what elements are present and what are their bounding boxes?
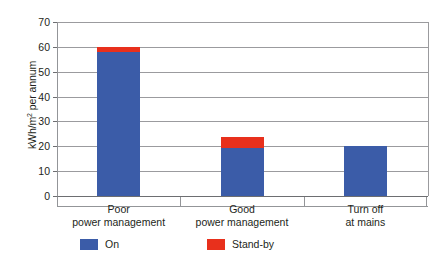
y-axis-tick-label: 40 bbox=[24, 92, 50, 103]
bar-group[interactable] bbox=[221, 22, 264, 196]
category-label: Turn offat mains bbox=[304, 203, 427, 229]
legend-label: On bbox=[105, 238, 119, 250]
legend-item-on[interactable]: On bbox=[80, 238, 119, 250]
y-axis-tick-label: 50 bbox=[24, 67, 50, 78]
category-label-line: at mains bbox=[304, 216, 427, 229]
legend-label: Stand-by bbox=[232, 238, 274, 250]
bar-segment-on[interactable] bbox=[221, 148, 264, 196]
category-label-line: Turn off bbox=[304, 203, 427, 216]
plot-right-border bbox=[428, 22, 429, 196]
category-label-line: power management bbox=[57, 216, 180, 229]
y-axis-tick-label: 30 bbox=[24, 116, 50, 127]
bar-segment-on[interactable] bbox=[97, 52, 140, 196]
category-label: Poorpower management bbox=[57, 203, 180, 229]
bar-group[interactable] bbox=[344, 22, 387, 196]
y-axis-tick-label: 60 bbox=[24, 42, 50, 53]
bar-segment-on[interactable] bbox=[344, 146, 387, 196]
chart-legend: OnStand-by bbox=[0, 238, 446, 256]
bar-chart: kWh/m2 per annum 010203040506070 Poorpow… bbox=[0, 0, 446, 267]
y-axis-tick-label: 0 bbox=[24, 191, 50, 202]
bar-segment-stand-by[interactable] bbox=[97, 47, 140, 52]
category-label-line: power management bbox=[180, 216, 303, 229]
category-label: Goodpower management bbox=[180, 203, 303, 229]
category-label-line: Good bbox=[180, 203, 303, 216]
bar-series-layer bbox=[57, 22, 427, 196]
bar-group[interactable] bbox=[97, 22, 140, 196]
legend-swatch bbox=[207, 239, 225, 250]
bar-segment-stand-by[interactable] bbox=[221, 137, 264, 147]
y-axis-tick-label: 70 bbox=[24, 17, 50, 28]
legend-item-stand-by[interactable]: Stand-by bbox=[207, 238, 274, 250]
y-axis-tick-label: 10 bbox=[24, 166, 50, 177]
category-label-line: Poor bbox=[57, 203, 180, 216]
y-axis-tick-label: 20 bbox=[24, 141, 50, 152]
legend-swatch bbox=[80, 239, 98, 250]
